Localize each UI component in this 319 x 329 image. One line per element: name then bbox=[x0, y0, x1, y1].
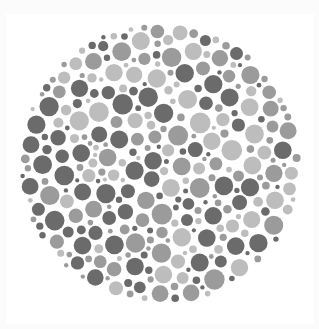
dot bbox=[155, 266, 173, 284]
dot bbox=[195, 218, 201, 224]
dot bbox=[205, 291, 211, 297]
dot bbox=[28, 198, 33, 203]
dot bbox=[144, 112, 151, 119]
dot bbox=[262, 85, 276, 99]
dot bbox=[129, 27, 134, 32]
dot bbox=[33, 155, 52, 174]
dot bbox=[204, 75, 222, 93]
dot bbox=[162, 144, 174, 156]
dot bbox=[132, 226, 137, 231]
dot bbox=[85, 53, 102, 70]
dot bbox=[156, 227, 167, 238]
dot bbox=[180, 148, 187, 155]
dot bbox=[124, 63, 129, 68]
dot bbox=[213, 194, 218, 199]
dot bbox=[190, 178, 210, 198]
dot bbox=[39, 232, 45, 238]
dot bbox=[65, 126, 70, 131]
dot bbox=[232, 195, 247, 210]
dot bbox=[121, 178, 126, 183]
dot bbox=[154, 41, 160, 47]
dot bbox=[147, 228, 153, 234]
dot bbox=[216, 113, 229, 126]
dot bbox=[230, 47, 243, 60]
dot bbox=[160, 126, 166, 132]
dot bbox=[266, 137, 273, 144]
dot bbox=[171, 294, 179, 302]
dot bbox=[213, 37, 220, 44]
dot bbox=[173, 228, 191, 246]
dot bbox=[93, 145, 99, 151]
dot bbox=[266, 191, 284, 209]
dot bbox=[77, 164, 84, 171]
dot bbox=[121, 33, 128, 40]
dot bbox=[21, 155, 30, 164]
dot bbox=[148, 69, 166, 87]
dot bbox=[36, 223, 43, 230]
dot bbox=[164, 159, 169, 164]
dot bbox=[223, 205, 232, 214]
dot bbox=[267, 121, 279, 133]
dot bbox=[30, 107, 34, 111]
dot bbox=[111, 33, 118, 40]
dot bbox=[132, 32, 150, 50]
dot bbox=[170, 99, 176, 105]
dot-plate bbox=[0, 0, 319, 329]
dot bbox=[246, 86, 256, 96]
dot bbox=[124, 279, 132, 287]
dot bbox=[127, 291, 134, 298]
dot bbox=[70, 134, 79, 143]
dot bbox=[193, 276, 201, 284]
dot bbox=[126, 233, 145, 252]
dot bbox=[74, 183, 91, 200]
dot bbox=[244, 157, 262, 175]
dot bbox=[58, 71, 70, 83]
dot bbox=[89, 102, 109, 122]
dot bbox=[42, 178, 49, 185]
dot bbox=[226, 167, 232, 173]
dot bbox=[148, 131, 161, 144]
dot bbox=[157, 145, 161, 149]
dot bbox=[209, 174, 216, 181]
dot bbox=[141, 25, 147, 31]
dot bbox=[257, 174, 263, 180]
dot bbox=[171, 220, 178, 227]
dot bbox=[217, 70, 221, 74]
dot bbox=[253, 197, 263, 207]
dot bbox=[245, 55, 251, 61]
dot bbox=[222, 42, 230, 50]
dot bbox=[183, 285, 200, 302]
dot bbox=[121, 184, 135, 198]
dot bbox=[183, 198, 195, 210]
dot bbox=[243, 211, 260, 228]
dot bbox=[101, 35, 105, 39]
dot bbox=[80, 73, 85, 78]
dot bbox=[231, 259, 248, 276]
dot bbox=[129, 87, 138, 96]
dot bbox=[43, 84, 50, 91]
dot bbox=[87, 269, 104, 286]
dot bbox=[212, 50, 228, 66]
dot bbox=[42, 134, 48, 140]
dot bbox=[91, 126, 107, 142]
dot bbox=[50, 77, 56, 83]
dot bbox=[275, 185, 279, 189]
dot bbox=[283, 205, 293, 215]
dot bbox=[116, 197, 122, 203]
dot bbox=[236, 214, 241, 219]
dot bbox=[131, 133, 144, 146]
dot bbox=[50, 130, 65, 145]
dot bbox=[200, 35, 211, 46]
dot bbox=[261, 207, 270, 216]
dot bbox=[198, 229, 216, 247]
dot bbox=[126, 67, 142, 83]
dot bbox=[245, 125, 264, 144]
dot bbox=[214, 245, 223, 254]
dot bbox=[86, 98, 91, 103]
dot bbox=[71, 256, 84, 269]
dot bbox=[175, 196, 181, 202]
dot bbox=[112, 42, 131, 61]
dot bbox=[102, 86, 115, 99]
dot bbox=[194, 85, 201, 92]
dot bbox=[271, 158, 276, 163]
